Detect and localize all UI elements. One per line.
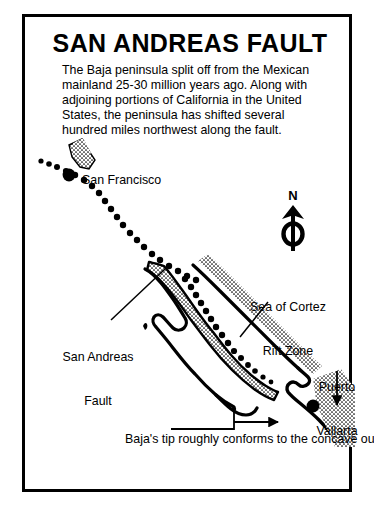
caption-anchor-dot	[232, 407, 236, 411]
san-francisco-marker	[63, 169, 76, 182]
caption-baja-tip: Baja's tip roughly conforms to the conca…	[125, 432, 285, 447]
figure-frame: SAN ANDREAS FAULT The Baja peninsula spl…	[22, 14, 352, 492]
label-san-andreas-line2: Fault	[49, 394, 147, 409]
california-landmass	[69, 138, 95, 169]
label-sea-of-cortez-line1: Sea of Cortez	[233, 300, 343, 315]
label-san-andreas-fault: San Andreas Fault	[49, 321, 147, 438]
compass-rose: N	[273, 189, 313, 255]
label-puerto-vallarta-line1: Puerto	[306, 380, 368, 395]
caption-leader-stem	[171, 409, 234, 429]
san-andreas-fault-figure: SAN ANDREAS FAULT The Baja peninsula spl…	[0, 0, 374, 516]
compass-north-label: N	[273, 189, 313, 202]
label-san-francisco: San Francisco	[82, 173, 161, 188]
label-san-andreas-line1: San Andreas	[49, 350, 147, 365]
north-arrow-icon	[273, 203, 313, 255]
san-andreas-leader-line	[111, 269, 165, 320]
label-puerto-vallarta: Puerto Vallarta	[306, 351, 368, 468]
